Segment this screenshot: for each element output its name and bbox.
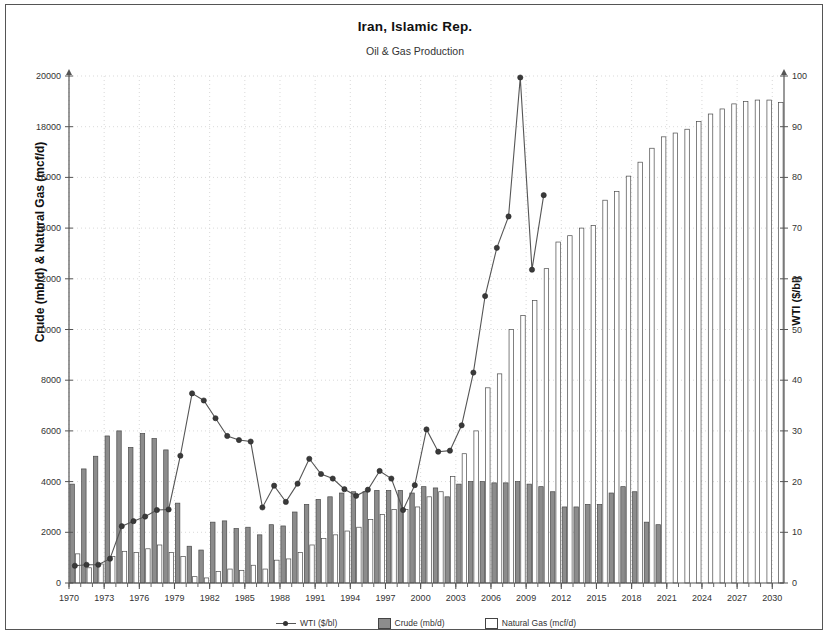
svg-text:16000: 16000 <box>36 172 61 182</box>
svg-text:1979: 1979 <box>164 593 184 603</box>
svg-text:2024: 2024 <box>692 593 712 603</box>
svg-text:0: 0 <box>56 578 61 588</box>
plot-area: 0200040006000800010000120001400016000180… <box>6 5 830 637</box>
svg-text:6000: 6000 <box>41 426 61 436</box>
svg-text:1976: 1976 <box>129 593 149 603</box>
legend-item-gas: Natural Gas (mcf/d) <box>485 618 576 629</box>
svg-text:2012: 2012 <box>551 593 571 603</box>
svg-text:2000: 2000 <box>411 593 431 603</box>
svg-text:0: 0 <box>792 578 797 588</box>
svg-text:1991: 1991 <box>305 593 325 603</box>
svg-text:70: 70 <box>792 223 802 233</box>
svg-text:18000: 18000 <box>36 122 61 132</box>
chart-legend: WTI ($/bl) Crude (mb/d) Natural Gas (mcf… <box>276 611 576 635</box>
svg-text:10000: 10000 <box>36 325 61 335</box>
svg-text:2003: 2003 <box>446 593 466 603</box>
legend-label-gas: Natural Gas (mcf/d) <box>502 618 576 628</box>
svg-text:4000: 4000 <box>41 477 61 487</box>
chart-canvas: 0200040006000800010000120001400016000180… <box>6 5 824 605</box>
svg-text:2000: 2000 <box>41 527 61 537</box>
svg-text:30: 30 <box>792 426 802 436</box>
svg-text:1985: 1985 <box>235 593 255 603</box>
svg-text:20000: 20000 <box>36 71 61 81</box>
svg-text:1997: 1997 <box>375 593 395 603</box>
legend-item-crude: Crude (mb/d) <box>378 618 445 629</box>
legend-item-wti: WTI ($/bl) <box>276 618 337 628</box>
svg-text:2027: 2027 <box>727 593 747 603</box>
svg-text:1982: 1982 <box>200 593 220 603</box>
svg-text:10: 10 <box>792 527 802 537</box>
svg-text:90: 90 <box>792 122 802 132</box>
svg-text:12000: 12000 <box>36 274 61 284</box>
svg-text:2021: 2021 <box>657 593 677 603</box>
legend-label-wti: WTI ($/bl) <box>300 618 337 628</box>
legend-label-crude: Crude (mb/d) <box>395 618 445 628</box>
svg-text:60: 60 <box>792 274 802 284</box>
svg-text:20: 20 <box>792 477 802 487</box>
svg-text:2015: 2015 <box>586 593 606 603</box>
chart-frame: Iran, Islamic Rep. Oil & Gas Production … <box>5 4 823 630</box>
svg-text:1994: 1994 <box>340 593 360 603</box>
svg-text:2018: 2018 <box>622 593 642 603</box>
svg-text:80: 80 <box>792 172 802 182</box>
svg-text:1970: 1970 <box>59 593 79 603</box>
gray-square-icon <box>378 618 391 629</box>
svg-text:2030: 2030 <box>762 593 782 603</box>
svg-text:2006: 2006 <box>481 593 501 603</box>
svg-text:50: 50 <box>792 325 802 335</box>
svg-text:2009: 2009 <box>516 593 536 603</box>
svg-text:100: 100 <box>792 71 807 81</box>
svg-text:1973: 1973 <box>94 593 114 603</box>
svg-text:8000: 8000 <box>41 375 61 385</box>
svg-text:1988: 1988 <box>270 593 290 603</box>
svg-text:40: 40 <box>792 375 802 385</box>
svg-text:14000: 14000 <box>36 223 61 233</box>
line-marker-icon <box>276 619 296 628</box>
white-square-icon <box>485 618 498 629</box>
